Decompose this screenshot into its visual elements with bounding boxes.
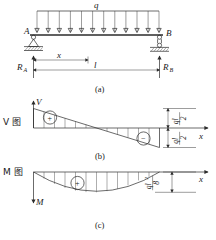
shear-value-top-denominator: 2: [179, 116, 188, 120]
shear-axis-v-label: V: [36, 97, 43, 107]
shear-axis-x-label: x: [198, 131, 203, 141]
load-intensity-label: q: [94, 0, 99, 10]
reaction-a-label: R A: [16, 62, 28, 73]
distributed-load-arrows: [35, 11, 161, 33]
shear-positive-sign: +: [48, 114, 53, 123]
moment-diagram-name: M 图: [3, 167, 23, 177]
shear-value-bottom: ql 2: [171, 132, 188, 145]
reaction-b-label: R B: [162, 62, 174, 73]
dimension-x: x: [33, 50, 89, 64]
reaction-b-symbol: R: [162, 62, 169, 72]
panel-shear-diagram: V x +: [3, 97, 209, 161]
dimension-l-label: l: [94, 60, 97, 70]
moment-value: ql 2 8: [144, 176, 161, 191]
shear-negative-marker: −: [137, 132, 150, 145]
node-label-a: A: [23, 26, 30, 36]
shear-v-axis: V: [31, 97, 43, 128]
moment-axis-x-label: x: [198, 174, 203, 184]
node-label-b: B: [166, 28, 172, 38]
moment-value-denominator: 8: [152, 181, 161, 185]
caption-a: (a): [95, 84, 105, 94]
moment-positive-sign: +: [75, 179, 80, 188]
reaction-a-subscript: A: [23, 67, 28, 73]
caption-b: (b): [95, 151, 105, 161]
moment-positive-marker: +: [71, 176, 84, 189]
panel-moment-diagram: M x + M 图: [3, 167, 209, 230]
reaction-b-subscript: B: [170, 67, 174, 73]
shear-value-top: ql 2: [171, 112, 188, 125]
dimension-x-label: x: [56, 50, 61, 60]
reaction-arrow-b: [157, 55, 161, 78]
panel-beam-loading: q: [16, 0, 174, 94]
figure-canvas: q: [0, 0, 216, 240]
beam-diagram-figure: q: [0, 0, 216, 240]
moment-value-annotation: ql 2 8: [144, 172, 196, 193]
moment-value-exponent: 2: [144, 177, 149, 180]
caption-c: (c): [95, 220, 105, 230]
shear-value-bottom-denominator: 2: [179, 136, 188, 140]
reaction-arrow-a: [31, 55, 35, 78]
shear-negative-sign: −: [141, 134, 146, 143]
support-a-pin: [24, 35, 43, 50]
reaction-a-symbol: R: [16, 62, 23, 72]
moment-hatching: [44, 172, 149, 192]
moment-axis-m-label: M: [35, 197, 44, 207]
shear-diagram-name: V 图: [3, 117, 21, 127]
dimension-l: l: [33, 60, 160, 72]
